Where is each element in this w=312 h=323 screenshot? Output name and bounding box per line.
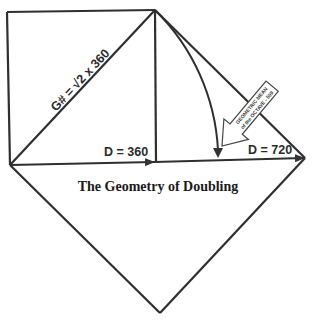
geometry-of-doubling-diagram: GEOMETRIC MEAN of the OCTAVE - 509 G# = … bbox=[0, 0, 312, 323]
diagram-canvas: GEOMETRIC MEAN of the OCTAVE - 509 G# = … bbox=[0, 0, 312, 323]
d360-label: D = 360 bbox=[104, 145, 148, 159]
square-left-side bbox=[7, 12, 10, 165]
arc-arrow bbox=[155, 10, 218, 150]
square-top-side bbox=[7, 10, 155, 12]
arc-arrowhead-icon bbox=[213, 148, 223, 158]
square-right-side bbox=[155, 10, 156, 162]
d720-arrow bbox=[154, 158, 304, 162]
d720-label: D = 720 bbox=[248, 143, 292, 157]
diagram-title: The Geometry of Doubling bbox=[78, 179, 239, 194]
d360-arrow bbox=[10, 162, 154, 165]
diagonal-label: G# = √2 x 360 bbox=[48, 46, 112, 114]
